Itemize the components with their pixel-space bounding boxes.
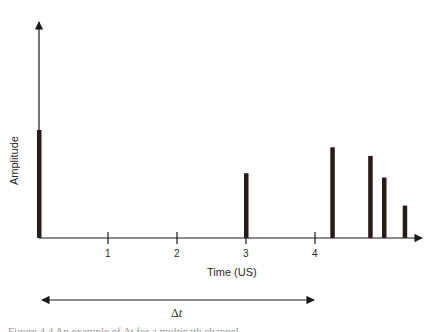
pulse-bar [244,173,249,238]
y-axis-label: Amplitude [8,136,20,185]
delta-symbol: Δ [171,306,179,320]
delta-var: t [179,306,182,320]
tick-label-1: 1 [105,248,111,259]
figure-caption: Figure 4.4 An example of Δt for a multip… [8,324,239,332]
pulse-bars [37,130,407,238]
tick-label-3: 3 [243,248,249,259]
delta-t-label: Δt [171,306,182,321]
pulse-bar [403,206,408,238]
chart-canvas [0,0,440,332]
pulse-bar [382,178,387,239]
x-axis-label: Time (US) [207,266,257,278]
pulse-bar [37,130,42,238]
tick-label-2: 2 [174,248,180,259]
tick-label-4: 4 [312,248,318,259]
pulse-bar [368,156,373,238]
pulse-bar [330,147,335,238]
